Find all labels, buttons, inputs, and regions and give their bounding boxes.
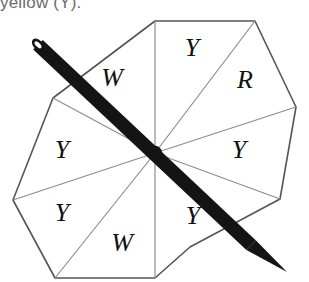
- sector-label-bottom-left: W: [111, 228, 135, 257]
- octagon-spinner[interactable]: Y R Y Y W Y Y W: [0, 0, 309, 282]
- sector-label-right-lower: Y: [232, 135, 249, 164]
- sector-label-left-upper: Y: [55, 135, 72, 164]
- spinner-figure: yellow (Y). Y R Y Y W Y Y W: [0, 0, 309, 282]
- pointer-hub: [148, 146, 162, 160]
- sector-label-right-upper: R: [236, 65, 253, 94]
- sector-label-top-left: W: [101, 63, 125, 92]
- pointer-tip: [246, 241, 287, 273]
- sector-label-left-lower: Y: [55, 198, 72, 227]
- sector-label-top-right: Y: [185, 33, 202, 62]
